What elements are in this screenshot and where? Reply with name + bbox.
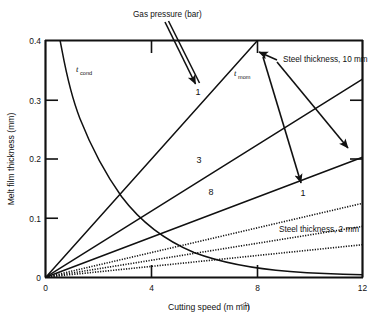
x-axis-title-main: Cutting speed (m min <box>168 302 250 312</box>
melt-film-thickness-chart: 0.4 0.3 0.2 0.1 0 0 4 8 12 Melt film thi… <box>0 0 378 323</box>
y-tick-label-0.4: 0.4 <box>29 36 41 46</box>
gas-pressure-label: Gas pressure (bar) <box>133 10 202 19</box>
chart-figure: 0.4 0.3 0.2 0.1 0 0 4 8 12 Melt film thi… <box>0 0 378 323</box>
t-cond-subscript: cond <box>80 70 92 76</box>
x-axis-title: Cutting speed (m min −1 ) <box>168 301 250 312</box>
x-tick-label-8: 8 <box>255 283 260 293</box>
y-axis-title: Melt film thickness (mm) <box>6 113 16 206</box>
x-tick-label-12: 12 <box>358 283 368 293</box>
x-axis-title-close: ) <box>247 302 250 312</box>
steel-thickness-10mm-label: Steel thickness, 10 mm <box>283 55 368 64</box>
t-mom-subscript: mom <box>238 74 251 80</box>
pressure-label-1-upper: 1 <box>195 87 200 97</box>
y-tick-label-0.3: 0.3 <box>29 96 41 106</box>
pressure-label-1-right: 1 <box>300 188 305 198</box>
x-tick-label-4: 4 <box>149 283 154 293</box>
y-tick-label-0.1: 0.1 <box>29 214 41 224</box>
pressure-label-3: 3 <box>196 155 201 165</box>
steel-thickness-2mm-label: Steel thickness, 2 mm <box>279 225 359 234</box>
x-tick-label-0: 0 <box>43 283 48 293</box>
pressure-label-8: 8 <box>208 187 213 197</box>
y-tick-label-0: 0 <box>36 273 41 283</box>
y-tick-label-0.2: 0.2 <box>29 154 41 164</box>
